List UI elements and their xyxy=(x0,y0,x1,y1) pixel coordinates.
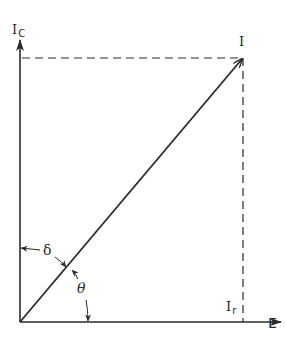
theta-arrow-down xyxy=(86,300,88,321)
delta-arrow-left xyxy=(21,248,40,250)
label-e: E xyxy=(268,316,277,330)
label-ir: Ir xyxy=(226,300,236,316)
label-i: I xyxy=(239,35,244,48)
phasor-diagram: IC I Ir E δ θ xyxy=(0,0,286,342)
label-ir-main: I xyxy=(226,299,231,314)
label-ic-main: I xyxy=(12,22,17,37)
label-delta: δ xyxy=(43,243,51,257)
resultant-vector-i xyxy=(20,59,242,322)
label-ir-sub: r xyxy=(232,305,236,316)
label-ic-sub: C xyxy=(18,28,25,39)
label-ic: IC xyxy=(12,23,25,39)
delta-arrow-right xyxy=(55,257,66,267)
phasor-drawing xyxy=(0,0,286,342)
label-theta: θ xyxy=(77,281,85,295)
theta-arrow-up xyxy=(72,270,78,279)
